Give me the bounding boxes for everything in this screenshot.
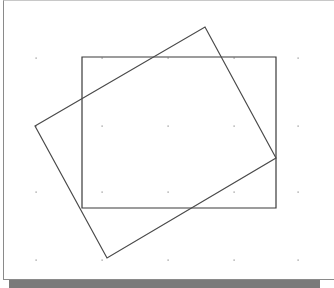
grid-dot [102,260,103,261]
grid-dot [234,58,235,59]
axis-aligned-rectangle [82,57,276,208]
grid-dot [168,260,169,261]
grid-dot [36,192,37,193]
grid-dot [298,192,299,193]
grid-dot [168,126,169,127]
grid-dot [298,58,299,59]
grid-dot [168,58,169,59]
grid-dot [36,260,37,261]
grid-dot [102,192,103,193]
grid-dot [298,126,299,127]
grid-dot [234,126,235,127]
grid-dot [102,58,103,59]
grid-dot [36,58,37,59]
rotated-rectangle [35,27,276,258]
grid-dot [234,260,235,261]
grid-dot [102,126,103,127]
grid-dot [234,192,235,193]
grid-dot [168,192,169,193]
dot-grid [36,58,299,261]
grid-dot [298,260,299,261]
